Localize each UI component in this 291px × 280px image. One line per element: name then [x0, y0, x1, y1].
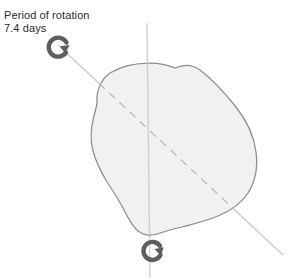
rotation-direction-arrow-bottom-icon	[143, 242, 163, 260]
irregular-body-shape	[91, 63, 256, 235]
period-of-rotation-annotation: Period of rotation 7.4 days	[4, 9, 90, 35]
annotation-line-2: 7.4 days	[4, 22, 90, 35]
annotation-line-1: Period of rotation	[4, 9, 90, 22]
rotation-diagram	[0, 0, 291, 280]
rotation-direction-arrow-top-icon	[49, 38, 70, 57]
figure-canvas: Period of rotation 7.4 days	[0, 0, 291, 280]
